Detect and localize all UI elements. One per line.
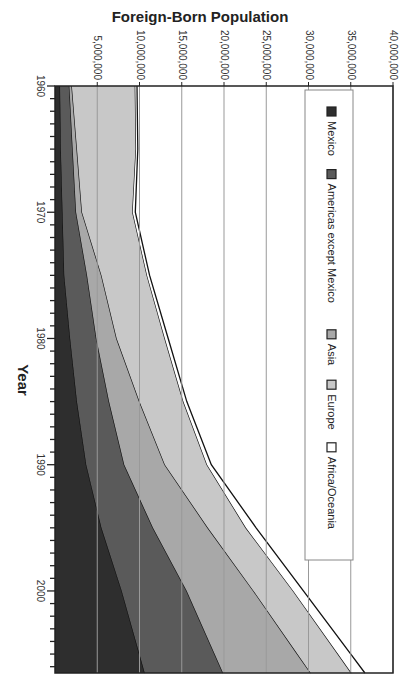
legend-swatch <box>327 443 336 452</box>
year-tick-label: 1990 <box>35 454 46 477</box>
stacked-area-chart: Foreign-Born Population 5,000,00010,000,… <box>0 0 402 681</box>
year-tick-label: 1970 <box>35 201 46 224</box>
legend-swatch <box>327 170 336 179</box>
legend-label: Europe <box>326 394 338 429</box>
population-axis-ticks: 5,000,00010,000,00015,000,00020,000,0002… <box>92 30 399 86</box>
chart-title: Foreign-Born Population <box>112 8 289 25</box>
legend-label: Americas except Mexico <box>326 184 338 303</box>
value-tick-label: 35,000,000 <box>346 30 357 80</box>
value-tick-label: 10,000,000 <box>135 30 146 80</box>
value-tick-label: 5,000,000 <box>92 36 103 81</box>
x-axis-label: Year <box>15 364 32 396</box>
legend-swatch <box>327 107 336 116</box>
year-tick-label: 2000 <box>35 580 46 603</box>
legend-swatch <box>327 380 336 389</box>
value-tick-label: 25,000,000 <box>261 30 272 80</box>
year-axis-ticks: 19601970198019902000 <box>35 75 55 667</box>
value-tick-label: 30,000,000 <box>304 30 315 80</box>
value-tick-label: 40,000,000 <box>388 30 399 80</box>
legend-label: Mexico <box>326 121 338 156</box>
legend-label: Africa/Oceania <box>326 457 338 530</box>
legend: MexicoAmericas except MexicoAsiaEuropeAf… <box>305 90 353 560</box>
legend-swatch <box>327 330 336 339</box>
year-tick-label: 1960 <box>35 75 46 98</box>
year-tick-label: 1980 <box>35 327 46 350</box>
value-tick-label: 20,000,000 <box>219 30 230 80</box>
legend-label: Asia <box>326 344 338 366</box>
value-tick-label: 15,000,000 <box>177 30 188 80</box>
